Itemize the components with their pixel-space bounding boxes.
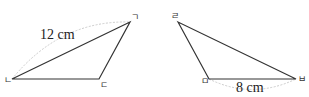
triangle-right-outline	[178, 22, 296, 79]
vertex-label-nieun: ㄴ	[4, 76, 12, 85]
vertex-label-digeut: ㄷ	[100, 81, 108, 90]
vertex-label-bieup: ㅂ	[298, 75, 306, 84]
vertex-label-mieum: ㅁ	[201, 77, 209, 86]
vertex-label-rieul: ㄹ	[171, 12, 179, 21]
side-length-right: 8 cm	[236, 81, 264, 95]
side-length-left: 12 cm	[40, 28, 75, 42]
vertex-label-giyeok: ㄱ	[131, 13, 139, 22]
